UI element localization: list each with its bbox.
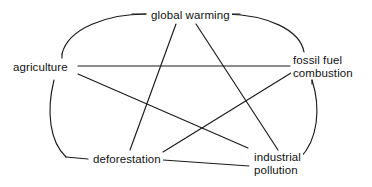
edge-layer	[0, 0, 372, 187]
edge-fossil-fuel-industrial	[300, 80, 317, 158]
node-global-warming-label: global warming	[151, 9, 230, 21]
node-fossil-fuel-label: fossil fuel	[293, 54, 342, 66]
node-deforestation[interactable]: deforestation	[91, 153, 163, 166]
node-global-warming[interactable]: global warming	[149, 9, 232, 22]
node-agriculture[interactable]: agriculture	[11, 61, 70, 74]
node-agriculture-label: agriculture	[13, 61, 68, 73]
node-fossil-fuel-label-line2: combustion	[293, 67, 353, 80]
edge-agriculture-industrial	[78, 74, 248, 148]
edge-global-warming-fossil-fuel	[226, 14, 304, 52]
node-industrial-label-line2: pollution	[254, 164, 301, 177]
concept-map-diagram: global warming agriculture fossil fuel c…	[0, 0, 372, 187]
node-fossil-fuel[interactable]: fossil fuel combustion	[291, 54, 355, 79]
node-deforestation-label: deforestation	[93, 153, 161, 165]
edge-agriculture-deforestation	[50, 80, 66, 157]
edge-global-warming-deforestation	[130, 24, 176, 150]
node-industrial-label: industrial	[254, 151, 301, 163]
edge-tail-deforestation-left	[66, 157, 88, 159]
node-industrial-pollution[interactable]: industrial pollution	[252, 151, 303, 176]
edge-deforestation-industrial	[163, 160, 249, 166]
edge-agriculture-global-warming	[62, 14, 146, 54]
